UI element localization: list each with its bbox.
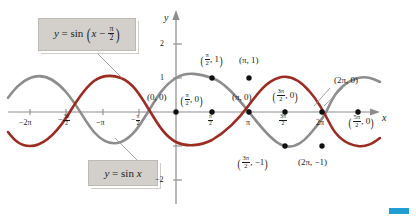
x-tick-2pi: 2π — [316, 118, 324, 127]
x-tick-pi: π — [246, 118, 250, 127]
leader-line-2pi-0 — [324, 88, 343, 106]
point-label-origin: (0, 0) — [147, 92, 167, 102]
point-label-3pi-over-2-neg1: (3π2, −1) — [237, 155, 269, 172]
y-tick-2: 2 — [160, 39, 164, 48]
point-label-2pi-neg1: (2π, −1) — [298, 157, 327, 167]
point-label-pi-over-2-0: (π2, 0) — [180, 92, 203, 109]
x-axis-label: x — [382, 112, 386, 123]
marker-3pi-over-2-neg1 — [282, 143, 287, 148]
marker-origin — [173, 109, 178, 114]
y-axis — [172, 10, 179, 204]
curve-sin-x — [8, 74, 380, 147]
point-label-5pi-over-2-0: (5π2, 0) — [348, 114, 375, 131]
marker-pi-1 — [246, 75, 251, 80]
marker-pi-over-2-1 — [209, 75, 214, 80]
callout-leader-lines — [98, 54, 343, 160]
x-tick-3pi-over-2: 3π2 — [279, 114, 287, 127]
leader-line-shifted — [98, 54, 122, 78]
y-tick-neg2: −2 — [155, 175, 164, 184]
leader-line-base — [115, 138, 137, 160]
x-tick-neg-2pi: −2π — [19, 118, 32, 127]
point-label-pi-0: (π, 0) — [232, 92, 252, 102]
callout-shifted-equation: y = sin (x − π2) — [38, 18, 136, 51]
corner-swatch — [389, 208, 409, 214]
x-tick-neg-pi-over-2: −π2 — [131, 114, 140, 127]
x-tick-pi-over-2: π2 — [208, 114, 213, 127]
callout-base-equation: y = sin x — [88, 160, 158, 186]
callout-shifted-text: y = sin (x − π2) — [48, 25, 126, 45]
point-label-2pi-0: (2π, 0) — [334, 75, 358, 85]
point-label-pi-over-2-1: (π2, 1) — [200, 52, 223, 69]
x-tick-neg-pi: −π — [96, 118, 105, 127]
point-label-pi-1: (π, 1) — [239, 55, 259, 65]
x-tick-neg-3pi-over-2: −3π2 — [58, 114, 70, 127]
callout-base-text: y = sin x — [98, 167, 147, 179]
point-label-3pi-over-2-0: (3π2, 0) — [272, 88, 299, 105]
y-tick-1: 1 — [160, 73, 164, 82]
leader-line-2pi-0-b — [314, 88, 330, 106]
marker-2pi-neg1 — [319, 143, 324, 148]
y-axis-label: y — [164, 12, 168, 23]
marker-pi-0 — [246, 109, 251, 114]
marker-2pi-0 — [319, 109, 324, 114]
